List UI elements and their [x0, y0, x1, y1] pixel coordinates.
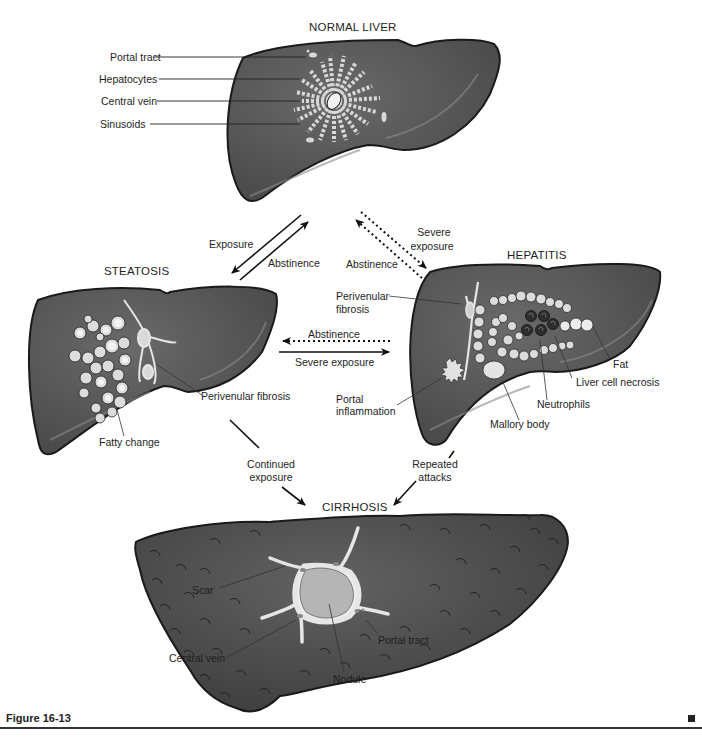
figure-caption: Figure 16-13 — [6, 712, 71, 724]
cirrhosis-title: CIRRHOSIS — [322, 501, 388, 513]
label-portal-tract-cirrhosis: Portal tract — [378, 634, 429, 646]
diagram-artwork — [0, 0, 702, 739]
normal-liver — [150, 40, 500, 201]
edge-label-attacks: attacks — [405, 471, 465, 483]
edge-label-repeated: Repeated — [405, 458, 465, 470]
label-sinusoids: Sinusoids — [100, 118, 146, 130]
label-mallory-body: Mallory body — [490, 418, 550, 430]
label-perivenular-fibrosis-steatosis: Perivenular fibrosis — [201, 390, 290, 402]
label-neutrophils: Neutrophils — [537, 398, 590, 410]
edge-label-abstinence-middle: Abstinence — [308, 328, 360, 340]
label-inflammation: inflammation — [336, 405, 396, 417]
edge-label-continued: Continued — [236, 458, 306, 470]
label-fat: Fat — [613, 358, 628, 370]
steatosis-title: STEATOSIS — [104, 265, 169, 277]
edge-label-exposure-hepatitis: exposure — [406, 240, 458, 252]
arrows-steatosis-hepatitis — [279, 341, 390, 352]
label-central-vein-cirrhosis: Central vein — [169, 652, 225, 664]
label-fibrosis: fibrosis — [336, 303, 369, 315]
edge-label-exposure-cirrhosis: exposure — [236, 471, 306, 483]
label-liver-cell-necrosis: Liver cell necrosis — [576, 376, 659, 388]
label-portal-tract: Portal tract — [110, 51, 161, 63]
label-portal: Portal — [336, 393, 363, 405]
edge-label-abstinence-hepatitis: Abstinence — [346, 258, 398, 270]
edge-label-severe-exposure-middle: Severe exposure — [295, 356, 374, 368]
edge-label-abstinence-steatosis: Abstinence — [268, 257, 320, 269]
normal-liver-title: NORMAL LIVER — [309, 21, 397, 33]
label-perivenular: Perivenular — [336, 290, 389, 302]
edge-label-exposure: Exposure — [209, 238, 253, 250]
liver-disease-diagram: NORMAL LIVER Portal tract Hepatocytes Ce… — [0, 0, 702, 739]
edge-label-severe: Severe — [414, 226, 454, 238]
label-nodule: Nodule — [333, 673, 366, 685]
label-scar: Scar — [192, 584, 214, 596]
label-hepatocytes: Hepatocytes — [99, 73, 157, 85]
label-central-vein: Central vein — [101, 95, 157, 107]
hepatitis-title: HEPATITIS — [507, 249, 567, 261]
label-fatty-change: Fatty change — [99, 436, 160, 448]
caption-rule — [0, 727, 702, 729]
end-of-figure-marker — [688, 715, 695, 722]
